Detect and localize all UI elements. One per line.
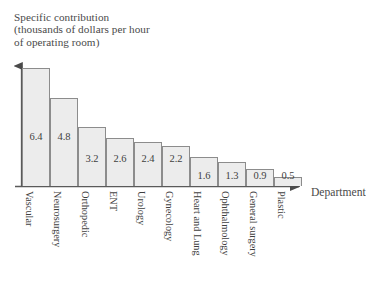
x-axis-title: Department (311, 186, 366, 199)
bar-urology: 2.4 (134, 142, 162, 186)
bar-value-general-surgery: 0.9 (247, 170, 273, 181)
bar-gynecology: 2.2 (162, 146, 190, 186)
bar-general-surgery: 0.9 (246, 169, 274, 186)
bar-value-heart-and-lung: 1.6 (191, 170, 217, 181)
bar-neurosurgery: 4.8 (50, 98, 78, 186)
bar-value-plastic: 0.5 (275, 170, 301, 181)
category-label-heart-and-lung: Heart and Lung (190, 189, 204, 217)
bar-value-urology: 2.4 (135, 153, 161, 164)
category-label-urology: Urology (134, 189, 148, 217)
category-label-neurosurgery: Neurosurgery (50, 189, 64, 217)
bar-value-orthopedic: 3.2 (79, 153, 105, 164)
bar-ent: 2.6 (106, 138, 134, 186)
bar-value-gynecology: 2.2 (163, 153, 189, 164)
category-label-gynecology: Gynecology (162, 189, 176, 217)
bar-ophthalmology: 1.3 (218, 162, 246, 186)
category-label-ophthalmology: Ophthalmology (218, 189, 232, 217)
category-label-ent: ENT (106, 189, 120, 217)
bar-value-vascular: 6.4 (23, 131, 49, 142)
category-label-orthopedic: Orthopedic (78, 189, 92, 217)
bar-heart-and-lung: 1.6 (190, 157, 218, 186)
bar-vascular: 6.4 (22, 68, 50, 186)
bar-value-ophthalmology: 1.3 (219, 170, 245, 181)
category-label-general-surgery: General surgery (246, 189, 260, 217)
bar-value-ent: 2.6 (107, 153, 133, 164)
category-label-vascular: Vascular (22, 189, 36, 217)
bar-orthopedic: 3.2 (78, 127, 106, 186)
bar-plastic: 0.5 (274, 177, 302, 186)
bar-value-neurosurgery: 4.8 (51, 131, 77, 142)
bars-layer: 6.4 4.8 3.2 2.6 2.4 2.2 1.6 1.3 (22, 56, 304, 186)
category-labels: Vascular Neurosurgery Orthopedic ENT Uro… (22, 189, 304, 281)
category-label-plastic: Plastic (274, 189, 288, 217)
